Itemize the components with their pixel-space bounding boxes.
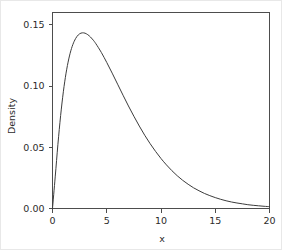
y-tick-label: 0.00 — [23, 203, 44, 214]
x-axis-title: x — [159, 233, 165, 244]
y-tick-label: 0.05 — [23, 142, 44, 153]
plot-canvas: 0.000.050.100.15 05101520 x Density — [1, 1, 282, 250]
y-tick-label: 0.15 — [23, 19, 44, 30]
density-plot-figure: 0.000.050.100.15 05101520 x Density — [0, 0, 282, 250]
x-tick-label: 5 — [104, 215, 110, 226]
y-tick-label: 0.10 — [23, 80, 44, 91]
x-tick-label: 15 — [209, 215, 221, 226]
x-tick-label: 0 — [49, 215, 55, 226]
x-tick-label: 10 — [155, 215, 167, 226]
y-axis-title: Density — [6, 98, 17, 134]
x-tick-label: 20 — [263, 215, 275, 226]
